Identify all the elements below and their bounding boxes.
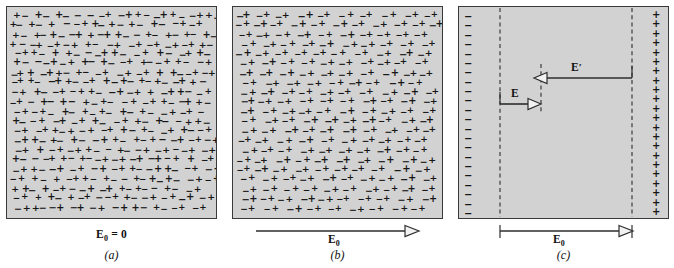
panel-c-label: (c) bbox=[458, 248, 669, 263]
physics-figure: +−+−+−−−−+−++−−++−−++−+−+−+−−++−+−+−+−−+… bbox=[0, 0, 674, 268]
e-prime-label: E′ bbox=[571, 61, 582, 73]
panel-c-e0-arrow-head bbox=[619, 226, 633, 237]
e-label: E bbox=[511, 87, 519, 99]
panel-c-vector-overlay bbox=[0, 0, 674, 268]
e-arrow-head bbox=[528, 99, 541, 110]
panel-c-field-label: E0 bbox=[553, 233, 565, 248]
